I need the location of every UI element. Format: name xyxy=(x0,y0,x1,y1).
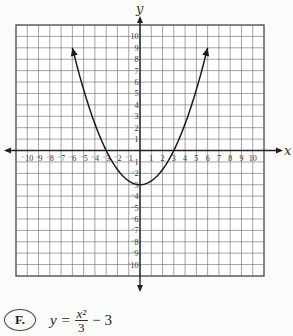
y-tick-label: ⁻8 xyxy=(131,238,139,247)
x-tick-label: ⁻8 xyxy=(46,154,54,163)
y-tick-label: 6 xyxy=(135,78,139,87)
y-tick-label: ⁻5 xyxy=(131,204,139,213)
y-tick-label: 7 xyxy=(135,67,139,76)
x-tick-label: 9 xyxy=(239,154,243,163)
x-tick-label: ⁻4 xyxy=(91,154,99,163)
x-tick-label: 4 xyxy=(183,154,187,163)
y-tick-label: 3 xyxy=(135,112,139,121)
y-tick-label: ⁻4 xyxy=(131,192,139,201)
x-tick-label: 7 xyxy=(217,154,221,163)
choice-label: F. xyxy=(15,312,25,328)
x-tick-label: ⁻10 xyxy=(21,154,33,163)
x-tick-label: ⁻2 xyxy=(113,154,121,163)
x-tick-label: ⁻7 xyxy=(57,154,65,163)
x-axis-label: x xyxy=(284,143,292,158)
y-tick-label: ⁻6 xyxy=(131,215,139,224)
y-tick-label: 4 xyxy=(135,101,139,110)
x-tick-label: 6 xyxy=(206,154,210,163)
x-axis-left-arrow-icon xyxy=(4,148,11,154)
y-tick-label: ⁻7 xyxy=(131,226,139,235)
y-tick-label: 10 xyxy=(131,32,139,41)
y-axis-down-arrow-icon xyxy=(137,285,143,292)
y-tick-label: 5 xyxy=(135,89,139,98)
y-axis-label: y xyxy=(135,1,144,16)
coordinate-plane: yx⁻10⁻9⁻8⁻7⁻6⁻5⁻4⁻3⁻2⁻112345678910109876… xyxy=(0,0,293,300)
y-tick-label: ⁻10 xyxy=(127,261,139,270)
y-tick-label: ⁻9 xyxy=(131,249,139,258)
y-tick-label: ⁻2 xyxy=(131,169,139,178)
y-tick-label: 9 xyxy=(135,44,139,53)
x-tick-label: ⁻6 xyxy=(68,154,76,163)
y-axis-up-arrow-icon xyxy=(137,16,143,23)
y-tick-label: 1 xyxy=(135,135,139,144)
x-tick-label: 8 xyxy=(228,154,232,163)
x-tick-label: 1 xyxy=(149,154,153,163)
equation-lhs: y = xyxy=(50,312,71,329)
equation-rest: − 3 xyxy=(92,312,112,329)
y-tick-label: ⁻1 xyxy=(131,158,139,167)
equation: y = x² 3 − 3 xyxy=(50,307,112,334)
numerator: x² xyxy=(75,307,89,321)
fraction: x² 3 xyxy=(75,307,89,334)
x-tick-label: ⁻5 xyxy=(80,154,88,163)
answer-choice: F. y = x² 3 − 3 xyxy=(4,306,112,334)
x-tick-label: 2 xyxy=(161,154,165,163)
x-tick-label: 10 xyxy=(249,154,257,163)
choice-circle: F. xyxy=(4,309,36,331)
x-axis-right-arrow-icon xyxy=(276,148,283,154)
denominator: 3 xyxy=(78,321,85,334)
y-tick-label: 2 xyxy=(135,124,139,133)
x-tick-label: 5 xyxy=(194,154,198,163)
x-tick-label: ⁻9 xyxy=(35,154,43,163)
y-tick-label: 8 xyxy=(135,55,139,64)
